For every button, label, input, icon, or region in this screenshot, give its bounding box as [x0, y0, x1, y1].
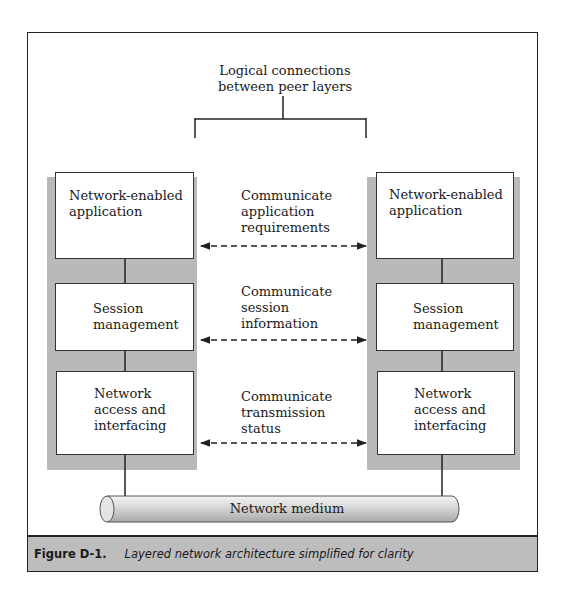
peer-link-label: Communicate	[241, 389, 332, 405]
layer-label: management	[93, 317, 179, 333]
caption-number: Figure D-1.	[34, 547, 107, 561]
layer-label: Session	[93, 301, 179, 317]
peer-link-label: requirements	[241, 220, 332, 236]
layer-label: application	[389, 203, 503, 219]
peer-link-label: Communicate	[241, 188, 332, 204]
layer-label: interfacing	[414, 418, 486, 434]
peer-link-transmission: Communicate transmission status	[241, 389, 332, 437]
left-layer-network-access: Network access and interfacing	[56, 371, 194, 455]
right-layer-session: Session management	[376, 283, 514, 351]
layer-label: interfacing	[94, 418, 166, 434]
layer-label: access and	[414, 402, 486, 418]
layer-label: access and	[94, 402, 166, 418]
layer-label: Session	[413, 301, 499, 317]
right-layer-application: Network-enabled application	[376, 172, 514, 259]
peer-link-application: Communicate application requirements	[241, 188, 332, 236]
left-layer-application: Network-enabled application	[55, 172, 194, 259]
left-layer-session: Session management	[55, 283, 194, 351]
peer-link-label: status	[241, 421, 332, 437]
caption-text: Layered network architecture simplified …	[125, 547, 414, 561]
peer-link-label: session	[241, 300, 332, 316]
right-layer-network-access: Network access and interfacing	[377, 371, 515, 455]
layer-label: Network-enabled	[69, 188, 183, 204]
layer-label: application	[69, 204, 183, 220]
peer-link-label: information	[241, 316, 332, 332]
layer-label: management	[413, 317, 499, 333]
layer-label: Network	[414, 386, 486, 402]
figure-caption: Figure D-1. Layered network architecture…	[27, 535, 538, 572]
peer-link-label: transmission	[241, 405, 332, 421]
layer-label: Network-enabled	[389, 187, 503, 203]
peer-link-label: Communicate	[241, 284, 332, 300]
layer-label: Network	[94, 386, 166, 402]
peer-link-label: application	[241, 204, 332, 220]
peer-link-session: Communicate session information	[241, 284, 332, 332]
network-medium-label: Network medium	[187, 501, 387, 517]
